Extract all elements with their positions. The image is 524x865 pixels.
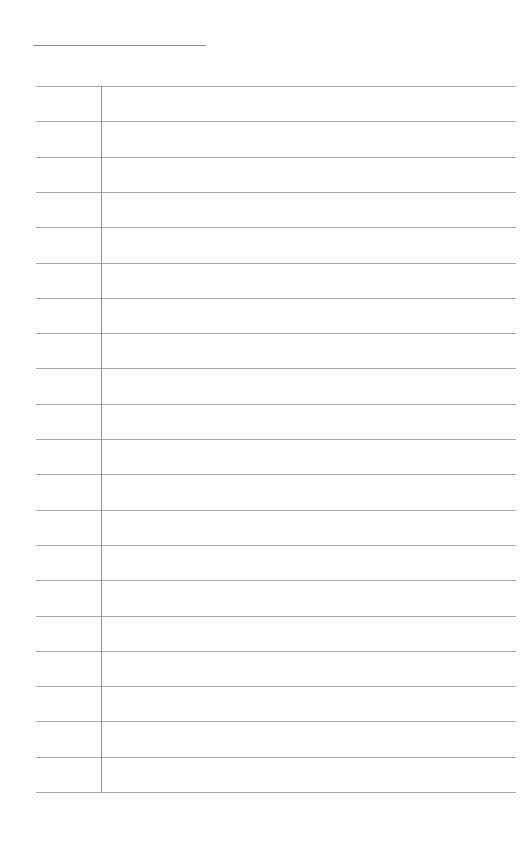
ruled-line xyxy=(36,86,516,87)
ruled-line xyxy=(36,192,516,193)
ruled-line xyxy=(36,651,516,652)
ruled-line xyxy=(36,333,516,334)
ruled-line xyxy=(36,545,516,546)
ruled-line xyxy=(36,404,516,405)
ruled-line xyxy=(36,510,516,511)
ruled-line xyxy=(36,439,516,440)
ruled-line xyxy=(36,368,516,369)
ruled-line xyxy=(36,721,516,722)
ruled-line xyxy=(36,227,516,228)
ruled-line xyxy=(36,792,516,793)
ruled-line xyxy=(36,757,516,758)
ruled-line xyxy=(36,263,516,264)
ruled-line xyxy=(36,121,516,122)
margin-line xyxy=(101,86,102,792)
ruled-line xyxy=(36,157,516,158)
ruled-line xyxy=(36,580,516,581)
ruled-line xyxy=(36,616,516,617)
title-underline xyxy=(33,45,206,46)
ruled-line xyxy=(36,298,516,299)
ruled-line xyxy=(36,686,516,687)
ruled-line xyxy=(36,474,516,475)
